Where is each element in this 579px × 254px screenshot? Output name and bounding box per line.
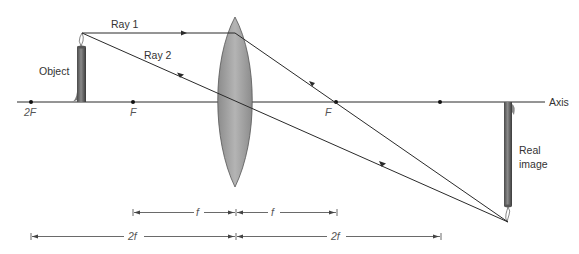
dimension-2f-right-label: 2f	[330, 230, 341, 242]
dimension-f-right	[236, 209, 337, 216]
image-label-line2: image	[519, 158, 548, 170]
ray-1-arrow-b	[309, 81, 315, 87]
ray-1-label: Ray 1	[111, 18, 139, 30]
dimension-2f-left-label: 2f	[127, 230, 138, 242]
dimension-f-right-label: f	[271, 206, 275, 218]
converging-lens	[218, 17, 253, 187]
axis-label: Axis	[549, 96, 569, 108]
dimension-f-left	[133, 209, 235, 216]
image-label-line1: Real	[519, 144, 541, 156]
object-candle	[72, 33, 86, 102]
object-label: Object	[39, 65, 69, 77]
label-left-f: F	[130, 106, 137, 118]
ray-2-arrow-b	[379, 161, 386, 167]
point-left-2f	[29, 100, 33, 104]
point-left-f	[131, 100, 135, 104]
ray-2-label: Ray 2	[144, 49, 172, 61]
label-left-2f: 2F	[23, 106, 37, 118]
label-right-f: F	[325, 106, 332, 118]
dimension-f-left-label: f	[196, 206, 200, 218]
ray-2	[82, 33, 508, 222]
point-right-2f	[438, 100, 442, 104]
real-image-candle	[504, 102, 515, 222]
ray-diagram: Axis 2F F F Object Real image Ray 1 Ray …	[0, 0, 579, 254]
ray-1-arrow-a	[181, 31, 187, 36]
